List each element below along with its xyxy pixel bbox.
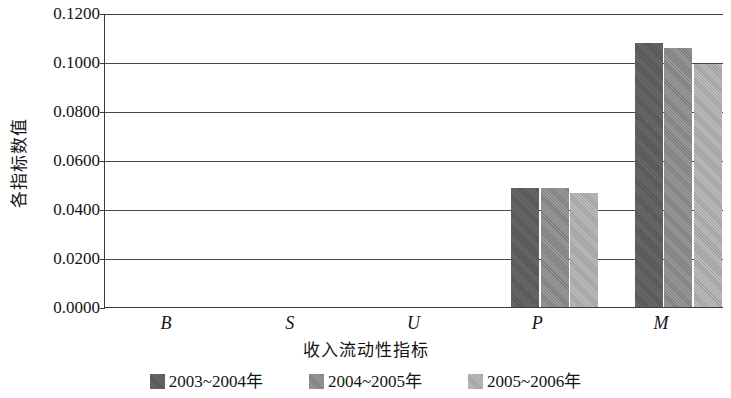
x-axis-tick-label: U (352, 312, 476, 334)
chart-legend: 2003~2004年2004~2005年2005~2006年 (0, 366, 731, 396)
bar-chart-figure: 各指标数值 0.12000.10000.08000.06000.04000.02… (0, 0, 731, 398)
bar-group (600, 14, 724, 307)
x-axis-tick-label: P (475, 312, 599, 334)
bar (694, 64, 722, 307)
bar-group (353, 14, 477, 307)
bar-group (476, 14, 600, 307)
legend-label: 2004~2005年 (328, 372, 422, 391)
legend-color-swatch (468, 374, 483, 389)
legend-item[interactable]: 2005~2006年 (468, 372, 581, 391)
plot-area (104, 14, 723, 308)
legend-item[interactable]: 2004~2005年 (309, 372, 422, 391)
bar (511, 188, 539, 307)
bar (664, 48, 692, 307)
y-axis-tick-label: 0.0800 (14, 103, 100, 120)
x-axis-tick-label: M (599, 312, 723, 334)
bar (570, 193, 598, 307)
y-axis-tick-label: 0.0000 (14, 299, 100, 316)
bar (541, 188, 569, 307)
y-axis-tick-mark (100, 308, 105, 309)
y-axis-tick-label: 0.0600 (14, 152, 100, 169)
y-axis-tick-label: 0.1200 (14, 5, 100, 22)
bar-group (229, 14, 353, 307)
x-axis-tick-label: B (104, 312, 228, 334)
legend-label: 2003~2004年 (169, 372, 263, 391)
y-axis-tick-labels: 0.12000.10000.08000.06000.04000.02000.00… (10, 0, 100, 320)
legend-color-swatch (150, 374, 165, 389)
y-axis-tick-label: 0.1000 (14, 54, 100, 71)
y-axis-tick-label: 0.0200 (14, 250, 100, 267)
legend-item[interactable]: 2003~2004年 (150, 372, 263, 391)
bar-group (105, 14, 229, 307)
y-axis-tick-label: 0.0400 (14, 201, 100, 218)
x-axis-tick-labels: BSUPM (104, 312, 723, 338)
x-axis-title: 收入流动性指标 (0, 336, 731, 361)
bar (635, 43, 663, 307)
legend-color-swatch (309, 374, 324, 389)
legend-label: 2005~2006年 (487, 372, 581, 391)
x-axis-tick-label: S (228, 312, 352, 334)
